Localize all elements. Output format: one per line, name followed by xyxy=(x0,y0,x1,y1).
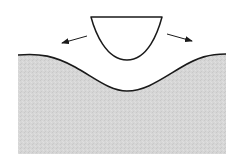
arrow-right-icon xyxy=(167,34,192,41)
indenter xyxy=(91,17,162,60)
substrate xyxy=(18,54,226,154)
diagram-canvas xyxy=(0,0,238,158)
indentation-diagram xyxy=(0,0,238,158)
arrow-left-icon xyxy=(62,36,87,43)
